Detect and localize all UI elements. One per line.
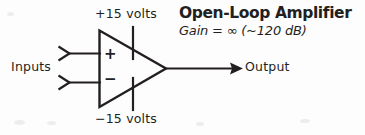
input-arrow-marker-icon: [59, 47, 70, 61]
scan-artifact: [7, 12, 14, 16]
supply-negative-label: −15 volts: [95, 113, 157, 126]
figure-subtitle-gain: Gain = ∞ (~120 dB): [179, 24, 351, 38]
title-block: Open-Loop Amplifier Gain = ∞ (~120 dB): [179, 5, 351, 38]
inputs-label: Inputs: [11, 61, 51, 74]
scan-artifact: [196, 122, 204, 126]
scan-artifact: [300, 119, 310, 123]
input-arrow-marker-icon: [59, 76, 70, 90]
opamp-diagram-figure: +15 volts −15 volts Inputs Output + − Op…: [0, 0, 365, 135]
scan-artifact: [47, 121, 56, 125]
supply-positive-label: +15 volts: [95, 8, 157, 21]
terminal-noninverting-mark: +: [104, 47, 117, 62]
figure-title: Open-Loop Amplifier: [179, 5, 351, 21]
scan-artifact: [14, 120, 25, 125]
terminal-inverting-mark: −: [104, 72, 117, 87]
output-label: Output: [245, 61, 290, 74]
